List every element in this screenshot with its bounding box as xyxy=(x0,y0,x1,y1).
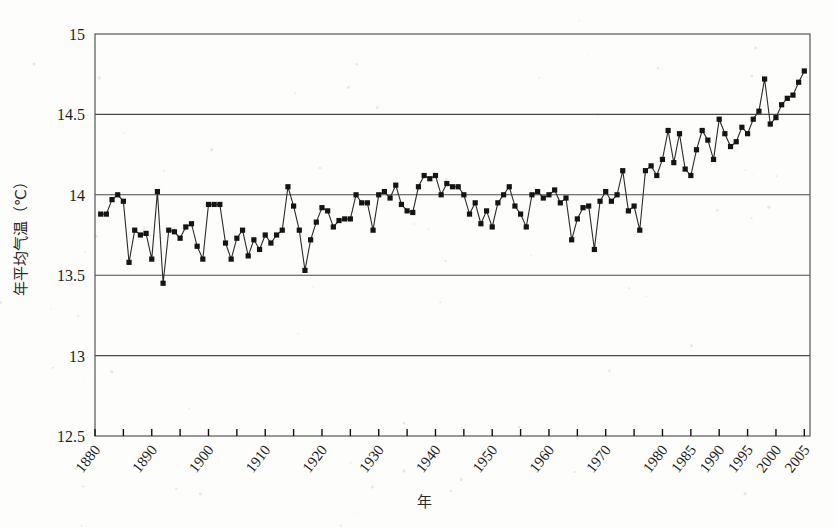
data-point-marker xyxy=(700,128,705,133)
data-point-marker xyxy=(274,232,279,237)
scan-speck xyxy=(776,175,778,177)
data-point-marker xyxy=(473,200,478,205)
scan-speck xyxy=(754,47,757,50)
data-point-marker xyxy=(592,247,597,252)
data-point-marker xyxy=(183,224,188,229)
data-point-marker xyxy=(342,216,347,221)
data-point-marker xyxy=(569,237,574,242)
data-point-marker xyxy=(773,115,778,120)
data-point-marker xyxy=(541,195,546,200)
data-point-marker xyxy=(734,139,739,144)
scan-speck xyxy=(716,209,718,211)
y-axis-title: 年平均气温（℃） xyxy=(12,174,30,296)
scan-speck xyxy=(340,524,342,526)
data-point-marker xyxy=(422,173,427,178)
data-point-marker xyxy=(456,184,461,189)
data-point-marker xyxy=(302,268,307,273)
scan-speck xyxy=(52,367,54,369)
annual-mean-temperature-line-chart: 12.51313.51414.515 188018901900191019201… xyxy=(0,0,836,527)
scan-speck xyxy=(518,426,521,429)
data-point-marker xyxy=(620,168,625,173)
data-point-marker xyxy=(694,147,699,152)
data-point-marker xyxy=(575,216,580,221)
data-point-marker xyxy=(558,200,563,205)
data-point-marker xyxy=(291,203,296,208)
scan-speck xyxy=(646,296,648,298)
data-point-marker xyxy=(195,244,200,249)
data-point-marker xyxy=(308,237,313,242)
y-tick-label: 13.5 xyxy=(57,267,85,284)
scan-speck xyxy=(294,92,296,94)
data-point-marker xyxy=(631,203,636,208)
scan-speck xyxy=(84,379,85,380)
data-point-marker xyxy=(518,211,523,216)
scan-speck xyxy=(745,169,746,170)
data-point-marker xyxy=(785,96,790,101)
scan-speck xyxy=(574,471,576,473)
data-point-marker xyxy=(649,163,654,168)
data-point-marker xyxy=(495,200,500,205)
scan-speck xyxy=(356,63,358,65)
data-point-marker xyxy=(393,183,398,188)
data-point-marker xyxy=(138,232,143,237)
data-point-marker xyxy=(325,208,330,213)
data-point-marker xyxy=(666,128,671,133)
scan-speck xyxy=(77,315,79,317)
y-tick-label: 12.5 xyxy=(57,428,85,445)
scan-speck xyxy=(753,174,754,175)
data-point-marker xyxy=(365,200,370,205)
data-point-marker xyxy=(529,192,534,197)
scan-speck xyxy=(750,74,753,77)
data-point-marker xyxy=(126,260,131,265)
scan-speck xyxy=(356,513,357,514)
data-point-marker xyxy=(563,195,568,200)
scan-speck xyxy=(163,170,165,172)
data-point-marker xyxy=(643,168,648,173)
data-point-marker xyxy=(263,232,268,237)
scan-speck xyxy=(544,190,545,191)
data-point-marker xyxy=(285,184,290,189)
data-point-marker xyxy=(98,211,103,216)
y-tick-label: 15 xyxy=(69,26,85,43)
data-point-marker xyxy=(484,208,489,213)
scan-speck xyxy=(371,485,374,488)
scan-speck xyxy=(124,132,126,134)
data-point-marker xyxy=(178,236,183,241)
data-point-marker xyxy=(439,192,444,197)
data-point-marker xyxy=(535,189,540,194)
scan-speck xyxy=(32,62,35,65)
y-tick-label: 14 xyxy=(69,187,85,204)
data-point-marker xyxy=(172,229,177,234)
scan-speck xyxy=(628,287,630,289)
data-point-marker xyxy=(779,102,784,107)
data-point-marker xyxy=(802,68,807,73)
y-tick-label: 14.5 xyxy=(57,106,85,123)
data-point-marker xyxy=(109,197,114,202)
data-point-marker xyxy=(756,109,761,114)
scan-speck xyxy=(183,431,185,433)
data-point-marker xyxy=(524,224,529,229)
data-point-marker xyxy=(212,202,217,207)
scan-speck xyxy=(428,228,430,230)
data-point-marker xyxy=(166,228,171,233)
data-point-marker xyxy=(796,80,801,85)
scan-speck xyxy=(319,167,321,169)
scan-speck xyxy=(143,228,145,230)
scan-speck xyxy=(175,488,177,490)
data-point-marker xyxy=(314,220,319,225)
data-point-marker xyxy=(160,281,165,286)
data-point-marker xyxy=(251,237,256,242)
scan-speck xyxy=(413,223,415,225)
scan-speck xyxy=(402,469,405,472)
data-point-marker xyxy=(433,173,438,178)
data-point-marker xyxy=(189,221,194,226)
scan-speck xyxy=(376,106,379,109)
scan-speck xyxy=(199,493,202,496)
data-point-marker xyxy=(405,208,410,213)
data-point-marker xyxy=(501,192,506,197)
scan-speck xyxy=(767,206,770,209)
data-point-marker xyxy=(399,202,404,207)
data-point-marker xyxy=(603,189,608,194)
data-point-marker xyxy=(348,216,353,221)
scan-speck xyxy=(350,462,352,464)
